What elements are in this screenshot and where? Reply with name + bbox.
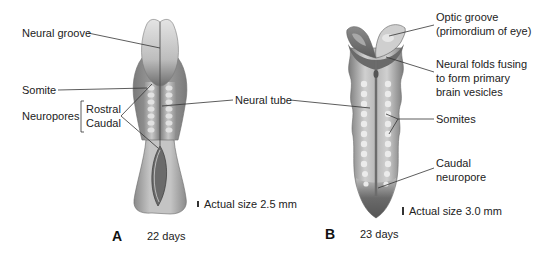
label-somite: Somite xyxy=(22,83,56,97)
label-rostral: Rostral xyxy=(86,102,121,116)
panel-age-a: 22 days xyxy=(147,230,186,242)
label-neural-tube: Neural tube xyxy=(235,93,292,107)
panel-letter-a: A xyxy=(112,228,122,244)
label-caudal-neuropore-2: neuropore xyxy=(436,170,486,184)
label-neural-folds-1: Neural folds fusing xyxy=(436,57,527,71)
label-optic-groove-sub: (primordium of eye) xyxy=(436,24,531,38)
scale-bar-icon xyxy=(197,201,199,207)
scale-b-text: Actual size 3.0 mm xyxy=(409,205,502,217)
label-somites: Somites xyxy=(436,112,476,126)
label-caudal-neuropore-1: Caudal xyxy=(436,156,471,170)
embryo-a xyxy=(133,19,187,214)
label-neuropores: Neuropores xyxy=(22,109,79,123)
panel-age-b: 23 days xyxy=(360,228,399,240)
label-optic-groove: Optic groove xyxy=(436,10,498,24)
scale-a-text: Actual size 2.5 mm xyxy=(204,198,297,210)
label-neural-folds-2: to form primary xyxy=(436,71,510,85)
panel-letter-b: B xyxy=(325,226,335,242)
label-neural-groove: Neural groove xyxy=(22,26,91,40)
label-neural-folds-3: brain vesicles xyxy=(436,85,503,99)
scale-b: Actual size 3.0 mm xyxy=(402,205,502,217)
embryo-figure: Neural groove Somite Neuropores Rostral … xyxy=(0,0,543,254)
scale-bar-icon xyxy=(402,207,404,215)
scale-a: Actual size 2.5 mm xyxy=(197,198,297,210)
label-caudal: Caudal xyxy=(86,116,121,130)
